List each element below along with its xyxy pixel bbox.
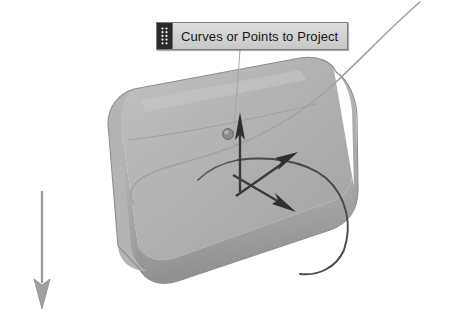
callout-label-text: Curves or Points to Project xyxy=(173,23,347,49)
projection-direction-arrow[interactable] xyxy=(34,191,50,309)
surface-geometry[interactable] xyxy=(108,57,358,283)
viewport-3d[interactable]: Curves or Points to Project xyxy=(0,0,467,327)
dot-grid-grip-icon[interactable] xyxy=(157,23,173,49)
selected-point-marker[interactable] xyxy=(223,129,234,140)
callout-label[interactable]: Curves or Points to Project xyxy=(156,22,348,50)
